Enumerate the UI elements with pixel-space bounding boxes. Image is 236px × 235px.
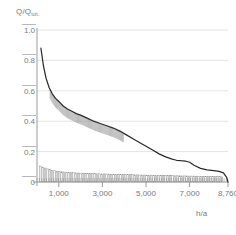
histogram-bar: [191, 176, 192, 182]
histogram-bar: [205, 176, 206, 182]
histogram-bar: [167, 176, 168, 182]
histogram-bar: [148, 175, 149, 182]
histogram-bar: [115, 174, 116, 182]
histogram-bar: [165, 175, 166, 182]
baseline-histogram: [40, 166, 223, 182]
histogram-bar: [122, 175, 123, 182]
histogram-bar: [219, 177, 220, 182]
histogram-bar: [176, 176, 177, 182]
histogram-bar: [162, 175, 163, 182]
histogram-bar: [207, 176, 208, 182]
histogram-bar: [58, 172, 59, 182]
histogram-bar: [42, 167, 43, 182]
histogram-bar: [184, 176, 185, 182]
histogram-bar: [68, 172, 69, 182]
histogram-bar: [127, 175, 128, 182]
histogram-bar: [40, 166, 41, 182]
histogram-bar: [61, 172, 62, 182]
histogram-bar: [56, 171, 57, 182]
histogram-bar: [158, 175, 159, 182]
histogram-bar: [136, 175, 137, 182]
histogram-bar: [51, 170, 52, 182]
histogram-bar: [146, 175, 147, 182]
load-duration-chart: Q/Qtot. h/a 1.00.80.60.40.20 1,0003,0005…: [0, 0, 236, 235]
histogram-bar: [179, 176, 180, 182]
histogram-bar: [132, 175, 133, 182]
histogram-bar: [214, 177, 215, 182]
histogram-bar: [143, 175, 144, 182]
histogram-bar: [181, 176, 182, 182]
histogram-bar: [139, 175, 140, 182]
histogram-bar: [70, 173, 71, 182]
histogram-bar: [54, 171, 55, 182]
histogram-bar: [73, 173, 74, 182]
histogram-bar: [198, 176, 199, 182]
histogram-bar: [160, 175, 161, 182]
histogram-bar: [169, 176, 170, 182]
histogram-bar: [200, 176, 201, 182]
plot-area: [0, 0, 236, 235]
histogram-bar: [155, 175, 156, 182]
histogram-bar: [44, 168, 45, 182]
histogram-bar: [49, 170, 50, 182]
histogram-bar: [134, 175, 135, 182]
histogram-bar: [63, 172, 64, 182]
histogram-bar: [75, 173, 76, 182]
histogram-bar: [153, 175, 154, 182]
histogram-bar: [188, 176, 189, 182]
histogram-bar: [141, 175, 142, 182]
histogram-bar: [120, 174, 121, 182]
hatch-band: [50, 89, 123, 142]
histogram-bar: [66, 172, 67, 182]
histogram-bar: [129, 175, 130, 182]
histogram-bar: [209, 177, 210, 182]
histogram-bar: [202, 176, 203, 182]
histogram-bar: [217, 177, 218, 182]
histogram-bar: [125, 175, 126, 182]
histogram-bar: [47, 169, 48, 182]
duration-curve-line: [41, 48, 228, 182]
histogram-bar: [212, 177, 213, 182]
histogram-bar: [117, 174, 118, 182]
histogram-bar: [221, 177, 222, 182]
histogram-bar: [172, 176, 173, 182]
histogram-bar: [77, 173, 78, 182]
histogram-bar: [174, 176, 175, 182]
histogram-bar: [186, 176, 187, 182]
histogram-bar: [151, 175, 152, 182]
histogram-bar: [195, 176, 196, 182]
histogram-bar: [193, 176, 194, 182]
